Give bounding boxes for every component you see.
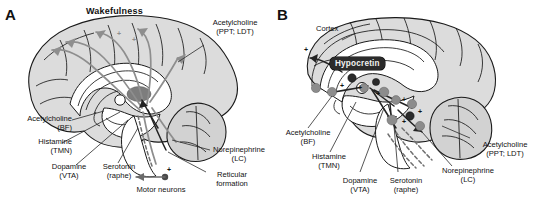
panel-b: B Hypocretin bbox=[272, 0, 545, 206]
label-line-2: (BF) bbox=[272, 137, 344, 146]
label-line-2: formation bbox=[204, 179, 260, 188]
label-line-2: (PPT; LDT) bbox=[468, 149, 542, 158]
label-line-2: (BF) bbox=[4, 123, 72, 132]
label-acetylcholine-bf: Acetylcholine (BF) bbox=[4, 114, 72, 132]
label-reticular-formation: Reticular formation bbox=[204, 170, 260, 188]
label-acetylcholine-bf: Acetylcholine (BF) bbox=[272, 128, 344, 146]
svg-text:+: + bbox=[117, 30, 121, 37]
label-line-1: Serotonin bbox=[376, 176, 436, 185]
label-line-1: Cortex bbox=[316, 24, 356, 33]
svg-text:+: + bbox=[358, 84, 362, 91]
label-line-1: Histamine bbox=[296, 152, 362, 161]
label-line-2: (LC) bbox=[204, 154, 274, 163]
label-histamine-tmn: Histamine (TMN) bbox=[296, 152, 362, 170]
label-line-1: Serotonin bbox=[90, 162, 148, 171]
label-line-1: Acetylcholine bbox=[468, 140, 542, 149]
svg-text:+: + bbox=[402, 118, 406, 125]
svg-text:+: + bbox=[376, 90, 380, 97]
svg-text:+: + bbox=[418, 108, 422, 115]
label-serotonin-raphe: Serotonin (raphe) bbox=[90, 162, 148, 180]
label-line-1: Motor neurons bbox=[128, 185, 194, 194]
svg-text:+: + bbox=[402, 96, 406, 103]
label-norepinephrine-lc: Norepinephrine (LC) bbox=[204, 145, 274, 163]
svg-text:+: + bbox=[132, 36, 136, 43]
svg-text:+: + bbox=[304, 46, 308, 53]
figure-root: A Wakefulness bbox=[0, 0, 545, 206]
label-line-1: Norepinephrine bbox=[204, 145, 274, 154]
panel-a: A Wakefulness bbox=[0, 0, 272, 206]
svg-text:+: + bbox=[340, 82, 344, 89]
label-line-2: (TMN) bbox=[14, 146, 72, 155]
label-acetylcholine-ppt-ldt: Acetylcholine (PPT; LDT) bbox=[200, 18, 270, 36]
label-serotonin-raphe: Serotonin (raphe) bbox=[376, 176, 436, 194]
label-histamine-tmn: Histamine (TMN) bbox=[14, 137, 72, 155]
label-norepinephrine-lc: Norepinephrine (LC) bbox=[430, 166, 506, 184]
label-line-1: Histamine bbox=[14, 137, 72, 146]
label-line-1: Reticular bbox=[204, 170, 260, 179]
label-line-2: (LC) bbox=[430, 175, 506, 184]
label-line-1: Acetylcholine bbox=[200, 18, 270, 27]
label-line-2: (TMN) bbox=[296, 161, 362, 170]
label-acetylcholine-ppt-ldt: Acetylcholine (PPT; LDT) bbox=[468, 140, 542, 158]
label-line-1: Acetylcholine bbox=[4, 114, 72, 123]
label-line-2: (raphe) bbox=[376, 185, 436, 194]
label-line-2: (raphe) bbox=[90, 171, 148, 180]
label-line-2: (PPT; LDT) bbox=[200, 27, 270, 36]
svg-text:+: + bbox=[167, 166, 171, 173]
label-line-1: Acetylcholine bbox=[272, 128, 344, 137]
label-cortex: Cortex bbox=[316, 24, 356, 33]
label-line-1: Norepinephrine bbox=[430, 166, 506, 175]
hypocretin-badge: Hypocretin bbox=[330, 57, 385, 70]
label-motor-neurons: Motor neurons bbox=[128, 185, 194, 194]
